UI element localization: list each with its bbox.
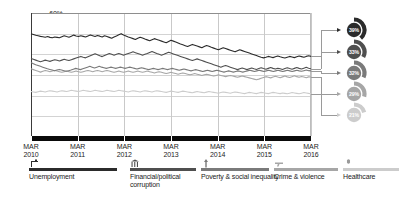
x-tick-mark: [124, 136, 125, 141]
callout-connector: [321, 94, 337, 95]
legend-label: Poverty & social inequality: [201, 173, 283, 181]
callout-connector: [321, 30, 337, 31]
legend-color-bar: [29, 168, 117, 171]
plot-area: [31, 13, 311, 137]
gauge-value-label: 21%: [341, 102, 367, 128]
series-line: [31, 34, 311, 58]
legend-color-bar: [343, 168, 399, 171]
legend-label: Financial/political corruption: [130, 173, 210, 190]
gun-icon: [274, 155, 285, 166]
callout-connector: [321, 52, 322, 69]
x-tick-mark: [78, 136, 79, 141]
callout-connector: [311, 94, 321, 95]
briefcase-person-icon: [29, 155, 40, 166]
x-tick-mark: [171, 136, 172, 141]
legend-color-bar: [201, 168, 269, 171]
callout-connector: [311, 77, 321, 78]
pill-icon: [343, 155, 354, 166]
x-tick-mark: [31, 136, 32, 141]
callout-connector: [321, 115, 337, 116]
legend-label: Unemployment: [29, 173, 131, 181]
x-tick-mark: [264, 136, 265, 141]
legend-color-bar: [274, 168, 338, 171]
legend-label: Crime & violence: [274, 173, 352, 181]
callout-connector: [311, 56, 321, 57]
series-lines: [31, 13, 311, 137]
callout-connector: [321, 52, 337, 53]
x-tick-mark: [311, 136, 312, 141]
callout-connector: [311, 71, 321, 72]
callout-connector: [311, 69, 321, 70]
legend-label: Healthcare: [343, 173, 403, 181]
series-line: [31, 90, 311, 94]
series-line: [31, 51, 311, 69]
end-value-gauge: 21%: [341, 102, 367, 128]
callout-connector: [321, 73, 337, 74]
callout-connector: [321, 94, 322, 115]
callout-connector: [321, 77, 322, 94]
legend-color-bar: [130, 168, 196, 171]
chart-legend: UnemploymentFinancial/political corrupti…: [29, 155, 374, 201]
gridline-vertical: [311, 13, 312, 137]
series-line: [31, 63, 311, 73]
x-tick-mark: [218, 136, 219, 141]
bank-building-icon: [130, 155, 141, 166]
person-arrow-icon: [201, 155, 212, 166]
